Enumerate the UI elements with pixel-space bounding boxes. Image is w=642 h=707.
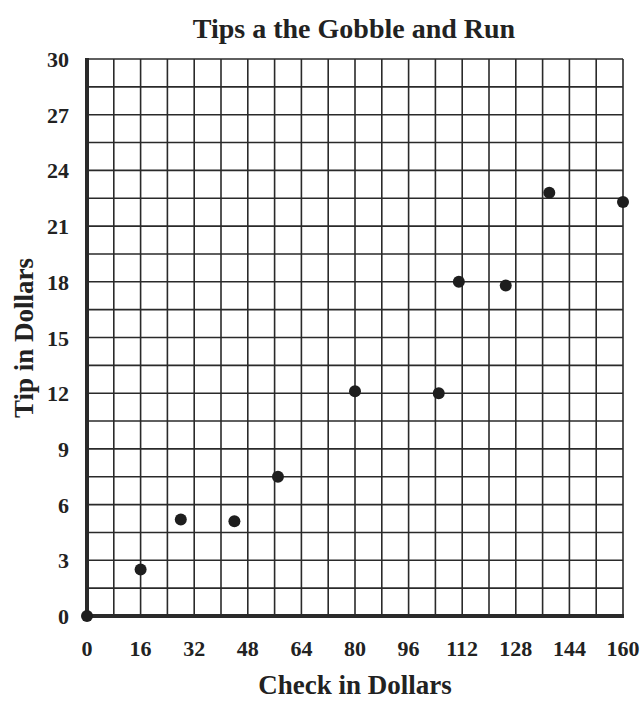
y-tick-label: 9 (58, 437, 69, 462)
y-tick-label: 30 (47, 47, 69, 72)
data-point (500, 280, 512, 292)
x-tick-label: 128 (499, 636, 532, 661)
data-point (617, 196, 629, 208)
y-axis-tick-labels: 036912151821242730 (47, 47, 69, 629)
x-axis-tick-labels: 0163248648096112128144160 (82, 636, 640, 661)
x-tick-label: 80 (344, 636, 366, 661)
y-tick-label: 3 (58, 548, 69, 573)
y-tick-label: 27 (47, 103, 69, 128)
scatter-chart: Tips a the Gobble and Run 01632486480961… (0, 0, 642, 707)
x-tick-label: 48 (237, 636, 259, 661)
y-tick-label: 15 (47, 326, 69, 351)
data-point (453, 276, 465, 288)
x-tick-label: 0 (82, 636, 93, 661)
x-tick-label: 64 (290, 636, 312, 661)
x-tick-label: 16 (130, 636, 152, 661)
x-tick-label: 32 (183, 636, 205, 661)
chart-title: Tips a the Gobble and Run (193, 13, 516, 44)
y-tick-label: 21 (47, 214, 69, 239)
data-point (543, 187, 555, 199)
data-point (228, 515, 240, 527)
y-tick-label: 18 (47, 270, 69, 295)
x-tick-label: 112 (446, 636, 478, 661)
data-point (349, 385, 361, 397)
data-point (433, 387, 445, 399)
x-tick-label: 144 (553, 636, 586, 661)
y-tick-label: 12 (47, 381, 69, 406)
data-point (81, 610, 93, 622)
data-point (135, 564, 147, 576)
y-tick-label: 24 (47, 158, 69, 183)
x-tick-label: 160 (607, 636, 640, 661)
x-tick-label: 96 (398, 636, 420, 661)
data-point (272, 471, 284, 483)
y-tick-label: 6 (58, 493, 69, 518)
x-axis-label: Check in Dollars (258, 670, 452, 700)
data-point (175, 513, 187, 525)
y-tick-label: 0 (58, 604, 69, 629)
y-axis-label: Tip in Dollars (9, 258, 39, 418)
grid-lines (87, 59, 623, 616)
